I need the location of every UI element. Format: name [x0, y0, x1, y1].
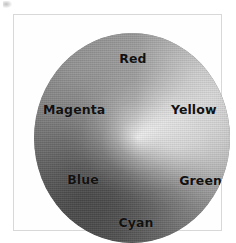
wheel-label-red: Red	[119, 53, 146, 66]
wheel-label-yellow: Yellow	[171, 103, 217, 116]
wheel-label-green: Green	[179, 175, 222, 188]
wheel-label-magenta: Magenta	[43, 103, 105, 116]
wheel-label-blue: Blue	[67, 174, 99, 187]
color-wheel-disc: Red Yellow Green Cyan Blue Magenta	[34, 33, 230, 243]
figure-plate-frame: Red Yellow Green Cyan Blue Magenta	[13, 14, 222, 231]
wheel-label-cyan: Cyan	[118, 217, 153, 230]
scan-artifact-speck	[3, 1, 12, 8]
